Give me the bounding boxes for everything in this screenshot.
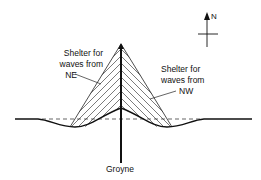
nw-shelter-label: Shelter for waves from NW [161,64,223,97]
ne-label-line2: waves from [45,59,103,70]
nw-label-line3: NW [161,86,223,97]
groyne-shelter-diagram: Shelter for waves from NE Shelter for wa… [0,0,261,180]
nw-label-line2: waves from [161,75,223,86]
nw-label-line1: Shelter for [161,64,223,75]
north-label: N [211,11,217,22]
ne-label-line1: Shelter for [45,48,103,59]
nw-shelter-hatching [112,40,182,180]
groyne-label: Groyne [106,164,134,175]
ne-label-line3: NE [45,70,103,81]
groyne-arrow-icon [118,43,124,49]
ne-shelter-label: Shelter for waves from NE [45,48,103,81]
